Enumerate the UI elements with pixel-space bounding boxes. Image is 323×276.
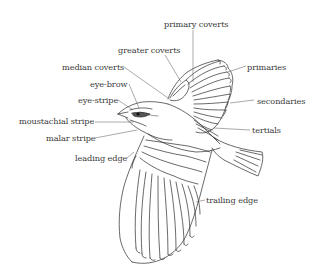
label-greater-coverts: greater coverts — [118, 45, 180, 55]
label-tertials: tertials — [252, 125, 281, 135]
label-eye-stripe: eye-stripe — [78, 95, 118, 105]
label-moustachial-stripe: moustachial stripe — [19, 116, 94, 126]
label-eye-brow: eye-brow — [90, 79, 127, 89]
upper-wing — [168, 60, 233, 133]
bird-topography-diagram: primary coverts greater coverts median c… — [0, 0, 323, 276]
label-primaries: primaries — [247, 62, 286, 72]
label-primary-coverts: primary coverts — [164, 19, 228, 29]
label-secondaries: secondaries — [257, 96, 305, 106]
face-markings — [130, 112, 150, 126]
label-leading-edge: leading edge — [75, 153, 127, 163]
label-median-coverts: median coverts — [62, 62, 124, 72]
label-malar-stripe: malar stripe — [46, 133, 96, 143]
label-trailing-edge: trailing edge — [206, 195, 258, 205]
lower-wing — [119, 136, 212, 263]
